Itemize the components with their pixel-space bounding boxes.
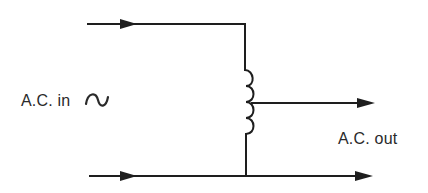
ac-out-label: A.C. out <box>338 131 397 147</box>
input-top-wire <box>88 24 245 70</box>
arrowhead-icon <box>355 171 373 181</box>
arrowhead-icon <box>120 19 137 29</box>
arrowhead-icon <box>120 171 137 181</box>
autotransformer-diagram: A.C. in A.C. out <box>0 0 428 193</box>
sine-wave-tilde-icon <box>86 94 108 105</box>
ac-in-label: A.C. in <box>21 93 70 109</box>
arrowhead-icon <box>357 98 375 108</box>
